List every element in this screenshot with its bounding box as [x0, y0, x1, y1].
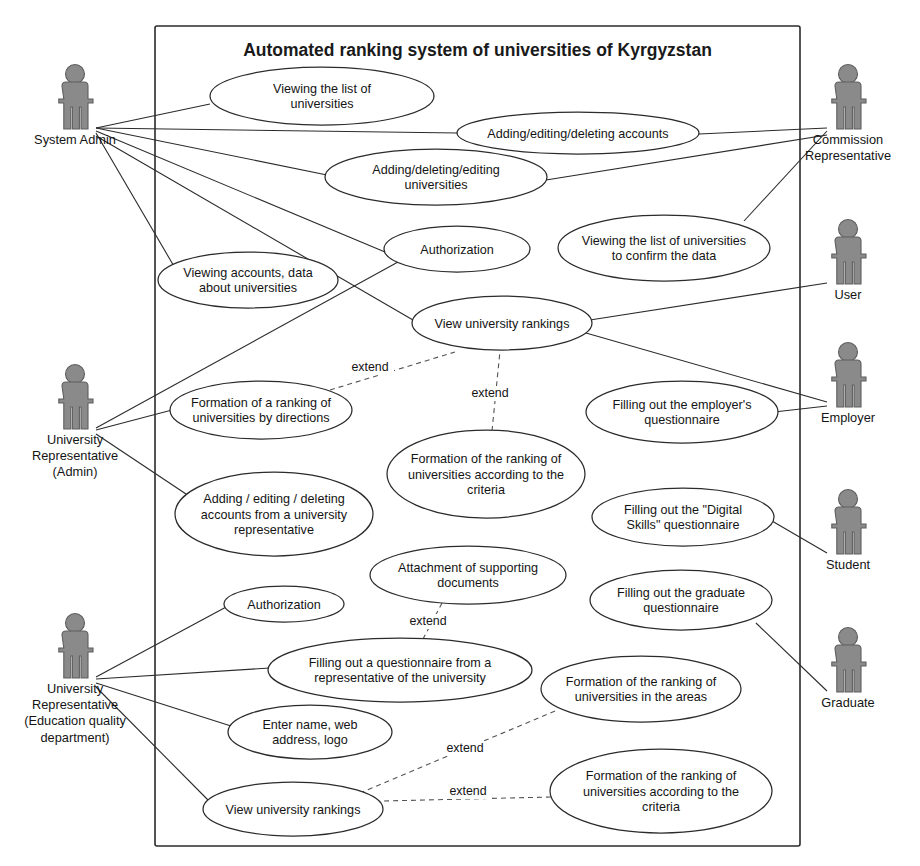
- use-case-formation-ranking-criteria-mid[interactable]: Formation of the ranking ofuniversities …: [387, 430, 585, 518]
- use-case-adding-editing-deleting-accounts-from-university-rep[interactable]: Adding / editing / deletingaccounts from…: [175, 472, 373, 556]
- use-case-formation-ranking-in-the-areas[interactable]: Formation of the ranking ofuniversities …: [541, 656, 741, 722]
- actor-university-representative-education-quality[interactable]: UniversityRepresentative(Education quali…: [24, 614, 126, 745]
- use-case-label-line: Skills" questionnaire: [627, 518, 740, 532]
- use-case-filling-digital-skills-questionnaire[interactable]: Filling out the "DigitalSkills" question…: [592, 488, 774, 546]
- association-line: [96, 128, 458, 133]
- use-case-filling-graduate-questionnaire[interactable]: Filling out the graduatequestionnaire: [590, 570, 772, 630]
- extend-relation-label: extend: [351, 360, 388, 374]
- association-line: [590, 283, 827, 320]
- use-case-viewing-accounts-data-about-universities[interactable]: Viewing accounts, dataabout universities: [158, 252, 338, 308]
- use-case-ellipse[interactable]: [541, 656, 741, 722]
- use-case-label: Viewing accounts, dataabout universities: [183, 266, 312, 296]
- use-case-filling-employer-questionnaire[interactable]: Filling out the employer'squestionnaire: [586, 381, 778, 443]
- use-case-label-line: to confirm the data: [612, 249, 716, 263]
- use-case-attachment-of-supporting-documents[interactable]: Attachment of supportingdocuments: [370, 546, 566, 604]
- use-case-label-line: universities according to the: [408, 468, 564, 482]
- actor-commission-representative[interactable]: CommissionRepresentative: [805, 65, 891, 164]
- use-case-ellipse[interactable]: [592, 488, 774, 546]
- use-case-filling-questionnaire-from-university-rep[interactable]: Filling out a questionnaire from arepres…: [268, 638, 532, 702]
- actor-body-icon: [832, 645, 866, 692]
- use-case-label: Filling out a questionnaire from arepres…: [309, 656, 492, 686]
- use-case-label-line: View university rankings: [435, 317, 570, 331]
- use-case-viewing-list-to-confirm-data[interactable]: Viewing the list of universitiesto confi…: [558, 215, 770, 281]
- extend-relation-label: extend: [471, 386, 508, 400]
- use-case-label-line: questionnaire: [644, 413, 720, 427]
- use-case-label: View university rankings: [226, 803, 361, 817]
- actor-label-line: Graduate: [821, 695, 874, 710]
- actor-student[interactable]: Student: [826, 490, 871, 573]
- association-line: [96, 434, 186, 494]
- actor-system-admin[interactable]: System Admin: [34, 65, 116, 148]
- extend-relation-label: extend: [446, 741, 483, 755]
- actor-university-representative-admin[interactable]: UniversityRepresentative(Admin): [32, 365, 118, 480]
- use-case-label-line: View university rankings: [226, 803, 361, 817]
- use-case-label-line: representative: [234, 523, 314, 537]
- use-case-ellipse[interactable]: [586, 381, 778, 443]
- use-case-label-line: Authorization: [420, 243, 494, 257]
- actor-label-line: University: [47, 681, 104, 696]
- actor-graduate[interactable]: Graduate: [821, 628, 874, 711]
- use-case-ellipse[interactable]: [558, 215, 770, 281]
- actor-head-icon: [839, 65, 858, 84]
- use-case-label-line: Adding/editing/deleting accounts: [487, 127, 668, 141]
- use-case-label-line: universities in the areas: [575, 690, 707, 704]
- use-case-label-line: Enter name, web: [262, 718, 357, 732]
- use-case-label: Formation of the ranking ofuniversities …: [566, 675, 717, 705]
- use-case-label-line: Adding / editing / deleting: [203, 492, 344, 506]
- actor-label: UniversityRepresentative(Education quali…: [24, 681, 126, 745]
- use-case-label-line: Filling out a questionnaire from a: [309, 656, 492, 670]
- actor-head-icon: [839, 343, 858, 362]
- use-case-adding-editing-deleting-accounts[interactable]: Adding/editing/deleting accounts: [457, 112, 699, 154]
- use-case-formation-ranking-criteria-bottom[interactable]: Formation of the ranking ofuniversities …: [550, 749, 772, 833]
- use-case-label-line: documents: [437, 576, 499, 590]
- use-case-enter-name-web-address-logo[interactable]: Enter name, webaddress, logo: [228, 705, 392, 759]
- use-case-label: Enter name, webaddress, logo: [262, 718, 357, 748]
- association-line: [96, 128, 327, 175]
- use-case-ellipse[interactable]: [158, 252, 338, 308]
- association-line: [96, 410, 172, 430]
- actor-body-icon: [832, 360, 866, 407]
- use-case-label: Formation of a ranking ofuniversities by…: [191, 396, 332, 426]
- extend-relation-label: extend: [449, 784, 486, 798]
- use-case-ellipse[interactable]: [228, 705, 392, 759]
- use-case-label: Adding/editing/deleting accounts: [487, 127, 668, 141]
- use-case-ellipse[interactable]: [370, 546, 566, 604]
- use-case-label-line: universities according to the: [583, 785, 739, 799]
- actor-label: UniversityRepresentative(Admin): [32, 432, 118, 479]
- use-case-viewing-list-of-universities[interactable]: Viewing the list ofuniversities: [210, 67, 434, 125]
- actor-label: Employer: [821, 410, 876, 425]
- actor-label: System Admin: [34, 132, 116, 147]
- actor-head-icon: [66, 65, 85, 84]
- use-case-authorization-bottom[interactable]: Authorization: [224, 586, 344, 622]
- actor-label-line: Representative: [32, 448, 118, 463]
- use-case-diagram: extendextendextendextendextend Viewing t…: [0, 0, 920, 866]
- use-case-label-line: Filling out the "Digital: [624, 503, 742, 517]
- use-case-ellipse[interactable]: [210, 67, 434, 125]
- actor-label-line: Commission: [813, 132, 883, 147]
- use-case-label-line: about universities: [199, 281, 297, 295]
- actor-user[interactable]: User: [832, 220, 866, 303]
- use-case-view-university-rankings-bottom[interactable]: View university rankings: [203, 782, 383, 836]
- actor-employer[interactable]: Employer: [821, 343, 876, 426]
- use-case-view-university-rankings-top[interactable]: View university rankings: [412, 296, 592, 350]
- use-case-label-line: Formation of the ranking of: [411, 452, 562, 466]
- association-line: [96, 668, 270, 679]
- use-case-adding-deleting-editing-universities[interactable]: Adding/deleting/editinguniversities: [325, 149, 547, 205]
- actor-head-icon: [839, 628, 858, 647]
- use-case-label: View university rankings: [435, 317, 570, 331]
- actor-label-line: System Admin: [34, 132, 116, 147]
- association-line: [96, 133, 175, 268]
- use-case-label-line: Formation of the ranking of: [566, 675, 717, 689]
- use-case-ellipse[interactable]: [268, 638, 532, 702]
- use-case-ellipse[interactable]: [170, 381, 352, 439]
- use-case-formation-ranking-by-directions[interactable]: Formation of a ranking ofuniversities by…: [170, 381, 352, 439]
- use-case-authorization-top[interactable]: Authorization: [384, 226, 530, 272]
- association-line: [96, 104, 210, 128]
- use-case-ellipse[interactable]: [590, 570, 772, 630]
- actor-label: Graduate: [821, 695, 874, 710]
- use-case-label: Authorization: [247, 598, 321, 612]
- actor-label-line: Representative: [32, 697, 118, 712]
- use-case-ellipse[interactable]: [325, 149, 547, 205]
- association-line: [96, 606, 228, 677]
- use-case-label-line: Authorization: [247, 598, 321, 612]
